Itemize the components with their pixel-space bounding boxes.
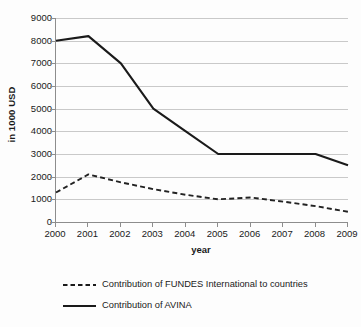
x-axis-tick-label: 2009: [327, 228, 361, 239]
legend-item[interactable]: Contribution of FUNDES International to …: [63, 276, 308, 293]
y-axis-tick-label: 0: [18, 217, 52, 227]
y-axis-tick-label: 4000: [18, 127, 52, 137]
y-axis-tick-label: 6000: [18, 81, 52, 91]
plot-area: [55, 18, 348, 223]
y-axis-tick-label: 3000: [18, 149, 52, 159]
x-axis-tick-mark: [217, 222, 218, 227]
legend-item[interactable]: Contribution of AVINA: [63, 297, 192, 314]
x-axis-tick-labels: 2000200120022003200420052006200720082009: [55, 228, 347, 242]
legend-label: Contribution of AVINA: [102, 301, 192, 310]
y-axis-tick-label: 8000: [18, 36, 52, 46]
x-axis-tick-mark: [315, 222, 316, 227]
x-axis-tick-mark: [347, 222, 348, 227]
x-axis-tick-marks: [55, 222, 347, 227]
x-axis-tick-mark: [282, 222, 283, 227]
y-axis-title-text: in 1000 USD: [6, 86, 17, 142]
x-axis-tick-mark: [152, 222, 153, 227]
chart-legend: Contribution of FUNDES International to …: [0, 276, 361, 320]
y-axis-tick-label: 5000: [18, 104, 52, 114]
legend-solid-line-icon: [63, 301, 96, 311]
y-axis-tick-label: 2000: [18, 172, 52, 182]
series-line: [56, 36, 348, 165]
y-axis-tick-label: 1000: [18, 195, 52, 205]
y-axis-tick-labels: 0100020003000400050006000700080009000: [18, 18, 52, 222]
x-axis-title: year: [55, 244, 347, 255]
y-axis-tick-label: 7000: [18, 59, 52, 69]
series-lines: [56, 18, 348, 222]
legend-label: Contribution of FUNDES International to …: [102, 280, 308, 289]
y-axis-tick-label: 9000: [18, 13, 52, 23]
x-axis-tick-mark: [120, 222, 121, 227]
x-axis-tick-mark: [87, 222, 88, 227]
series-line: [56, 174, 348, 211]
x-axis-tick-mark: [250, 222, 251, 227]
legend-dashed-line-icon: [63, 280, 96, 290]
line-chart: in 1000 USD 0100020003000400050006000700…: [0, 0, 361, 327]
x-axis-tick-mark: [185, 222, 186, 227]
x-axis-tick-mark: [55, 222, 56, 227]
